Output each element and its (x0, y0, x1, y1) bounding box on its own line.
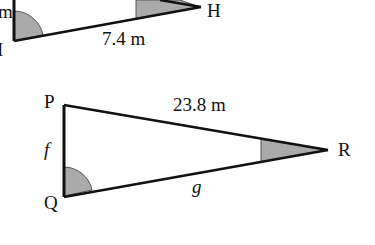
side-IH-length: 7.4 m (102, 29, 145, 48)
vertex-P: P (44, 92, 55, 111)
side-PQ-label: f (44, 140, 49, 159)
vertex-Q: Q (44, 193, 58, 212)
vertex-R: R (338, 140, 351, 159)
vertex-I: I (0, 40, 3, 59)
vertex-H: H (207, 1, 221, 20)
angle-R-shade (261, 139, 327, 162)
side-PR-length: 23.8 m (173, 95, 226, 114)
side-QR-label: g (192, 177, 202, 196)
label-partial-m: m (0, 2, 13, 21)
